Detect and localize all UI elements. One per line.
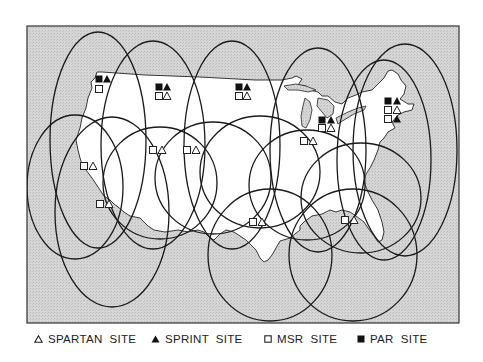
msr-site-icon [96, 86, 103, 93]
par-site-icon [96, 76, 103, 83]
msr-site-icon [97, 201, 104, 208]
legend-item-par: PAR SITE [357, 333, 427, 345]
legend: SPARTAN SITE SPRINT SITE MSR SITE PAR SI… [0, 333, 483, 353]
par-site-icon [385, 98, 392, 105]
msr-site-icon [236, 93, 243, 100]
msr-site-icon [342, 217, 349, 224]
legend-label: PAR SITE [370, 333, 427, 345]
filled-square-icon [357, 335, 365, 343]
legend-item-msr: MSR SITE [264, 333, 337, 345]
msr-site-icon [385, 116, 392, 123]
legend-item-spartan: SPARTAN SITE [34, 333, 136, 345]
msr-site-icon [385, 107, 392, 114]
msr-site-icon [250, 219, 257, 226]
legend-label: SPRINT SITE [165, 333, 243, 345]
open-triangle-icon [34, 335, 43, 343]
msr-site-icon [301, 138, 308, 145]
msr-site-icon [184, 147, 191, 154]
par-site-icon [236, 84, 243, 91]
msr-site-icon [81, 163, 88, 170]
msr-site-icon [319, 125, 326, 132]
par-site-icon [156, 84, 163, 91]
filled-triangle-icon [151, 335, 160, 343]
legend-label: SPARTAN SITE [48, 333, 136, 345]
legend-label: MSR SITE [277, 333, 337, 345]
abm-defense-map [0, 0, 483, 362]
msr-site-icon [150, 147, 157, 154]
par-site-icon [319, 117, 326, 124]
open-square-icon [264, 335, 272, 343]
legend-item-sprint: SPRINT SITE [151, 333, 243, 345]
msr-site-icon [156, 93, 163, 100]
